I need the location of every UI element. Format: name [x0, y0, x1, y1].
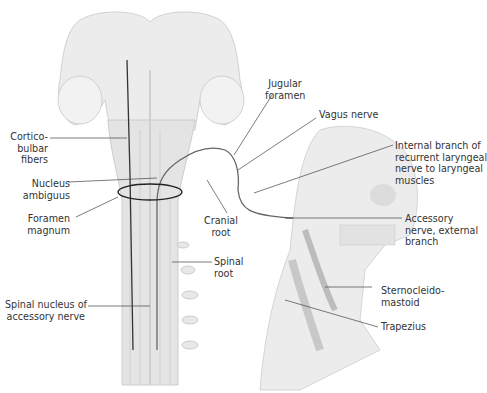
- label-nucleus-ambiguus: Nucleus ambiguus: [20, 178, 70, 201]
- spinal-rootlets: [177, 242, 198, 349]
- label-cranial-root: Cranial root: [204, 215, 238, 238]
- label-foramen-magnum: Foramen magnum: [20, 213, 70, 236]
- label-internal-branch: Internal branch of recurrent laryngeal n…: [395, 140, 487, 186]
- label-spinal-root: Spinal root: [214, 256, 243, 279]
- label-corticobulbar-fibers: Cortico- bulbar fibers: [8, 131, 48, 166]
- label-jugular-foramen: Jugular foramen: [265, 78, 305, 101]
- label-trapezius: Trapezius: [381, 321, 426, 333]
- label-vagus-nerve: Vagus nerve: [319, 109, 378, 121]
- label-spinal-nucleus: Spinal nucleus of accessory nerve: [5, 299, 85, 322]
- label-accessory-external-branch: Accessory nerve, external branch: [405, 213, 478, 248]
- head-neck-lateral: [260, 126, 418, 390]
- label-sternocleidomastoid: Sternocleido- mastoid: [381, 285, 445, 308]
